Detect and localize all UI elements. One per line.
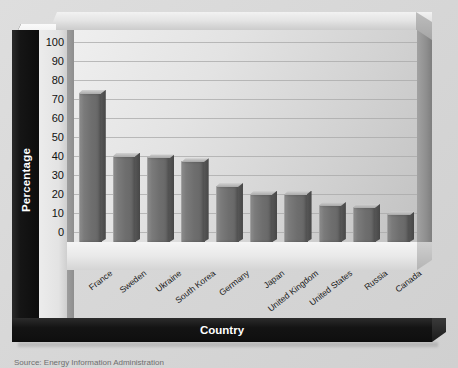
x-axis-title: Country <box>12 324 432 336</box>
bar-side-face <box>135 153 140 243</box>
bar <box>387 214 410 242</box>
bar <box>284 194 307 243</box>
y-axis-tick-label: 40 <box>52 150 64 162</box>
y-axis-tick-label: 80 <box>52 74 64 86</box>
y-axis-tick-label: 90 <box>52 55 64 67</box>
chart-drop-shadow <box>18 342 438 347</box>
bar-side-face <box>375 204 380 242</box>
x-axis-category-label: Sweden <box>118 268 149 295</box>
bar <box>79 93 102 242</box>
bar-side-face <box>409 211 414 242</box>
x-axis-category-labels: FranceSwedenUkraineSouth KoreaGermanyJap… <box>67 268 432 320</box>
y-axis-tick-strip: 1009080706050403020100 <box>39 30 67 330</box>
plot-right-wall <box>417 30 432 242</box>
y-axis-tick-label: 0 <box>58 226 64 238</box>
y-axis-tick-label: 70 <box>52 93 64 105</box>
y-axis-title-band: Percentage <box>12 30 39 330</box>
bar <box>216 186 239 242</box>
bar-side-face <box>307 191 312 243</box>
x-axis-category-label: Ukraine <box>153 268 183 294</box>
y-axis-tick-label: 30 <box>52 169 64 181</box>
bar <box>250 194 273 243</box>
x-axis-category-label: Russia <box>362 268 389 292</box>
y-axis-tick-label: 100 <box>46 36 64 48</box>
y-axis-tick-label: 20 <box>52 188 64 200</box>
bar <box>147 157 170 242</box>
bar-side-face <box>238 183 243 242</box>
bar <box>319 205 342 242</box>
bar-side-face <box>341 202 346 242</box>
bar-side-face <box>204 158 209 242</box>
plot-floor-right-face <box>417 242 432 270</box>
source-caption: Source: Energy Information Administratio… <box>14 358 164 368</box>
y-axis-tick-label: 60 <box>52 112 64 124</box>
bar <box>113 156 136 243</box>
x-axis-title-band-edge <box>432 318 446 342</box>
x-axis-category-label: France <box>87 268 114 292</box>
bar-series <box>74 30 417 252</box>
bar-side-face <box>101 90 106 242</box>
bar-chart-figure: Percentage 1009080706050403020100 France… <box>12 12 436 348</box>
y-axis-title: Percentage <box>20 148 32 212</box>
x-axis-title-band: Country <box>12 318 432 342</box>
page-canvas: Percentage 1009080706050403020100 France… <box>0 0 458 368</box>
x-axis-category-label: Japan <box>261 268 286 290</box>
bar-side-face <box>169 154 174 242</box>
x-axis-category-label: Canada <box>393 268 423 294</box>
x-axis-category-label: Germany <box>217 268 251 298</box>
y-axis-tick-label: 10 <box>52 207 64 219</box>
chart-top-bevel <box>49 12 432 31</box>
bar <box>353 207 376 242</box>
bar <box>181 161 204 242</box>
bar-side-face <box>272 191 277 243</box>
y-axis-tick-label: 50 <box>52 131 64 143</box>
